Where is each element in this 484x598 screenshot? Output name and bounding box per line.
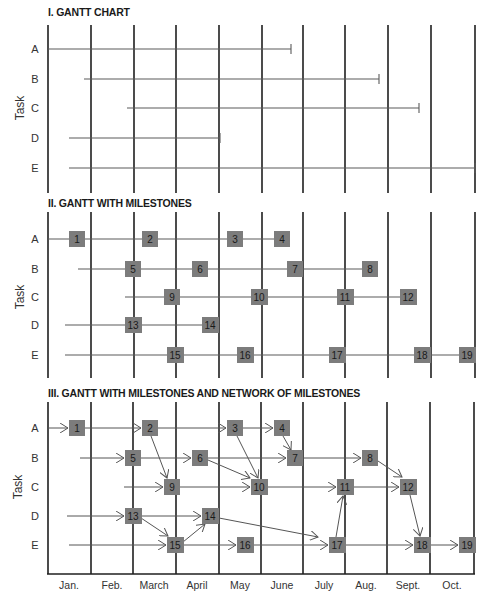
task-label-e: E — [31, 539, 38, 551]
milestone-19: 19 — [459, 347, 476, 363]
dep-13-15 — [141, 518, 168, 536]
svg-text:19: 19 — [461, 350, 473, 361]
month-label: Oct. — [442, 579, 461, 591]
gantt-chart-figure: I. GANTT CHART Task A B C D E — [0, 0, 484, 598]
svg-text:17: 17 — [331, 540, 343, 551]
dep-8-12 — [378, 461, 402, 477]
milestone-15: 15 — [167, 347, 184, 363]
milestone-15: 15 — [167, 537, 184, 553]
svg-text:16: 16 — [239, 350, 251, 361]
task-labels: A B C D E — [31, 422, 39, 551]
milestone-5: 5 — [125, 261, 141, 277]
svg-text:11: 11 — [340, 292, 351, 303]
svg-text:14: 14 — [204, 511, 216, 522]
milestone-11: 11 — [337, 289, 354, 305]
task-labels: A B C D E — [31, 233, 39, 361]
svg-text:7: 7 — [292, 264, 298, 275]
milestone-12: 12 — [400, 479, 417, 495]
task-label-d: D — [31, 132, 39, 144]
svg-text:10: 10 — [253, 292, 265, 303]
svg-text:7: 7 — [292, 453, 298, 464]
svg-text:9: 9 — [169, 482, 175, 493]
svg-text:13: 13 — [127, 511, 139, 522]
milestone-7: 7 — [287, 450, 303, 466]
svg-text:10: 10 — [253, 482, 265, 493]
task-label-d: D — [31, 319, 39, 331]
milestone-2: 2 — [142, 420, 158, 436]
section2-title: II. GANTT WITH MILESTONES — [48, 197, 192, 209]
svg-text:8: 8 — [367, 453, 373, 464]
svg-text:2: 2 — [147, 423, 153, 434]
month-label: May — [230, 579, 251, 591]
task-label-b: B — [31, 73, 38, 85]
task-label-c: C — [31, 481, 39, 493]
milestone-14: 14 — [202, 508, 219, 524]
month-label: Jan. — [59, 579, 79, 591]
svg-text:1: 1 — [74, 423, 80, 434]
svg-text:6: 6 — [197, 453, 203, 464]
svg-text:4: 4 — [279, 234, 285, 245]
task-label-c: C — [31, 102, 39, 114]
y-axis-label: Task — [13, 95, 27, 121]
milestone-10: 10 — [251, 289, 268, 305]
dep-12-18 — [410, 495, 420, 536]
milestone-18: 18 — [414, 347, 431, 363]
svg-text:12: 12 — [402, 482, 414, 493]
milestone-8: 8 — [362, 261, 378, 277]
task-label-d: D — [31, 510, 39, 522]
month-label: Feb. — [101, 579, 122, 591]
milestone-3: 3 — [227, 231, 243, 247]
milestone-8: 8 — [362, 450, 378, 466]
milestone-17: 17 — [329, 347, 346, 363]
task-label-a: A — [31, 422, 39, 434]
task-label-a: A — [31, 233, 39, 245]
svg-text:5: 5 — [130, 453, 136, 464]
dep-6-10 — [208, 460, 250, 478]
dep-2-9 — [151, 436, 167, 478]
task-label-e: E — [31, 162, 38, 174]
svg-text:8: 8 — [367, 264, 373, 275]
milestone-3: 3 — [227, 420, 243, 436]
month-label: April — [186, 579, 207, 591]
milestone-6: 6 — [192, 261, 208, 277]
svg-text:9: 9 — [169, 292, 175, 303]
milestone-4: 4 — [274, 420, 290, 436]
milestone-6: 6 — [192, 450, 208, 466]
y-axis-label: Task — [11, 474, 25, 500]
milestone-16: 16 — [237, 347, 254, 363]
section3-title: III. GANTT WITH MILESTONES AND NETWORK O… — [48, 387, 360, 399]
task-label-b: B — [31, 452, 38, 464]
section1-title: I. GANTT CHART — [48, 6, 131, 18]
task-label-e: E — [31, 349, 38, 361]
svg-text:12: 12 — [402, 292, 414, 303]
month-label: June — [271, 579, 294, 591]
svg-text:11: 11 — [340, 482, 351, 493]
month-label: Sept. — [396, 579, 421, 591]
milestone-4: 4 — [274, 231, 290, 247]
svg-text:2: 2 — [147, 234, 153, 245]
svg-text:18: 18 — [416, 350, 428, 361]
svg-text:16: 16 — [239, 540, 251, 551]
svg-text:17: 17 — [331, 350, 343, 361]
svg-text:15: 15 — [169, 540, 181, 551]
milestone-11: 11 — [337, 479, 354, 495]
svg-text:18: 18 — [416, 540, 428, 551]
milestone-13: 13 — [125, 508, 142, 524]
milestone-1: 1 — [69, 231, 85, 247]
milestone-12: 12 — [400, 289, 417, 305]
milestone-2: 2 — [142, 231, 158, 247]
y-axis-label: Task — [13, 284, 27, 310]
milestone-1: 1 — [69, 420, 85, 436]
milestone-9: 9 — [164, 289, 180, 305]
svg-text:14: 14 — [204, 320, 216, 331]
milestone-19: 19 — [459, 537, 476, 553]
month-label: Aug. — [355, 579, 377, 591]
task-label-a: A — [31, 43, 39, 55]
svg-text:15: 15 — [169, 350, 181, 361]
svg-text:3: 3 — [232, 423, 238, 434]
x-axis-month-labels: Jan. Feb. March April May June July Aug.… — [59, 579, 462, 591]
dep-3-10 — [237, 436, 258, 478]
svg-text:5: 5 — [130, 264, 136, 275]
svg-text:6: 6 — [197, 264, 203, 275]
milestone-14: 14 — [202, 317, 219, 333]
